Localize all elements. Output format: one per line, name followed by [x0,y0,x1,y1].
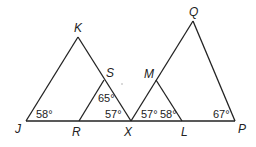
vertex-label-j: J [14,122,22,136]
angle-label-mxl: 57° [141,108,158,120]
geometry-diagram: K J S R X M L Q P 58° 65° 57° 57° 58° 67… [0,0,256,147]
angle-label-p: 67° [213,108,230,120]
vertex-label-r: R [72,125,81,139]
vertex-label-l: L [181,125,188,139]
angle-label-j: 58° [36,108,53,120]
angle-label-rsx: 65° [98,92,115,104]
segment-qp [193,21,235,121]
stray-dot [121,83,122,84]
vertex-label-p: P [238,122,246,136]
segment-xq [131,21,193,121]
angle-label-sxr: 57° [105,108,122,120]
angle-label-mlx: 58° [160,108,177,120]
vertex-label-x: X [123,125,133,139]
vertex-label-s: S [106,66,114,80]
vertex-label-q: Q [189,5,198,19]
vertex-label-m: M [144,67,154,81]
vertex-label-k: K [74,21,83,35]
